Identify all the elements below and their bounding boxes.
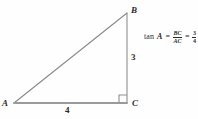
right-triangle-svg bbox=[0, 0, 198, 119]
side-label-vertical-leg: 3 bbox=[131, 53, 136, 62]
side-label-horizontal-leg: 4 bbox=[65, 106, 70, 115]
formula-value-denominator: 4 bbox=[192, 37, 196, 45]
formula-equals-second: = bbox=[185, 33, 190, 41]
formula-ratio-denominator: AC bbox=[173, 37, 182, 45]
right-angle-marker-icon bbox=[119, 95, 127, 103]
formula-angle-variable: A bbox=[157, 33, 162, 41]
triangle-hypotenuse bbox=[14, 13, 127, 103]
formula-value-fraction: 3 4 bbox=[192, 30, 196, 44]
formula-equals-first: = bbox=[165, 33, 170, 41]
vertex-label-a: A bbox=[2, 99, 8, 108]
formula-ratio-fraction: BC AC bbox=[173, 30, 182, 44]
figure-container: A B C 3 4 tan A = BC AC = 3 4 bbox=[0, 0, 198, 119]
tangent-formula: tan A = BC AC = 3 4 bbox=[144, 30, 196, 44]
formula-function-name: tan bbox=[144, 33, 154, 41]
vertex-label-c: C bbox=[132, 99, 138, 108]
vertex-label-b: B bbox=[131, 6, 137, 15]
